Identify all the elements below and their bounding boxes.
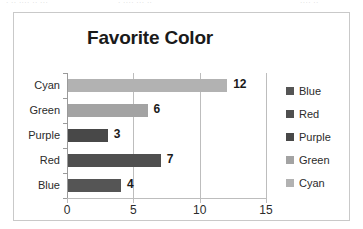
plot-area: 126374 [67, 73, 266, 198]
category-label-blue: Blue [0, 179, 60, 191]
bar-red[interactable] [68, 154, 161, 167]
legend-item-purple[interactable]: Purple [286, 125, 348, 148]
chart-title: Favorite Color [14, 27, 286, 49]
bar-value-label-cyan: 12 [233, 77, 246, 91]
clipped-text-segment-right: ···· ·· [300, 0, 319, 8]
legend-label-green: Green [299, 154, 330, 166]
bar-row: 7 [68, 148, 267, 173]
bar-value-label-purple: 3 [114, 127, 121, 141]
category-label-green: Green [0, 104, 60, 116]
legend-item-green[interactable]: Green [286, 148, 348, 171]
category-label-cyan: Cyan [0, 79, 60, 91]
legend-item-red[interactable]: Red [286, 102, 348, 125]
bar-value-label-green: 6 [154, 102, 161, 116]
x-tick-label-5: 5 [118, 203, 148, 217]
x-axis-line [67, 198, 267, 199]
bar-value-label-red: 7 [167, 152, 174, 166]
chart-legend: BlueRedPurpleGreenCyan [286, 79, 348, 194]
bar-blue[interactable] [68, 179, 121, 192]
bar-green[interactable] [68, 104, 148, 117]
legend-label-blue: Blue [299, 85, 321, 97]
bar-row: 12 [68, 73, 267, 98]
clipped-text-segment-middle: · ···· ··· ·· [118, 0, 152, 8]
bar-row: 3 [68, 123, 267, 148]
legend-label-cyan: Cyan [299, 177, 325, 189]
legend-swatch-purple-icon [286, 133, 294, 141]
bar-cyan[interactable] [68, 79, 227, 92]
clipped-text-segment-left: · ·· ···· ·· ··· [6, 0, 48, 8]
legend-item-cyan[interactable]: Cyan [286, 171, 348, 194]
x-tick-label-0: 0 [52, 203, 82, 217]
bar-row: 4 [68, 173, 267, 198]
x-tick-label-10: 10 [185, 203, 215, 217]
legend-swatch-blue-icon [286, 87, 294, 95]
bar-row: 6 [68, 98, 267, 123]
legend-swatch-cyan-icon [286, 179, 294, 187]
legend-item-blue[interactable]: Blue [286, 79, 348, 102]
bar-purple[interactable] [68, 129, 108, 142]
legend-label-purple: Purple [299, 131, 331, 143]
legend-swatch-green-icon [286, 156, 294, 164]
chart-container: Favorite Color 126374 CyanGreenPurpleRed… [13, 12, 350, 221]
legend-label-red: Red [299, 108, 319, 120]
x-tick-label-15: 15 [251, 203, 281, 217]
top-clipped-text-artifact: · ·· ···· ·· ··· · ···· ··· ·· ···· ·· [0, 0, 363, 10]
legend-swatch-red-icon [286, 110, 294, 118]
bar-value-label-blue: 4 [127, 177, 134, 191]
category-label-red: Red [0, 154, 60, 166]
category-label-purple: Purple [0, 129, 60, 141]
